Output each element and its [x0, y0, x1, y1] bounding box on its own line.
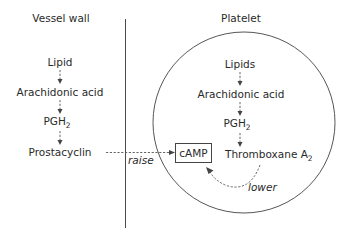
platelet-step-lipids: Lipids [225, 58, 256, 70]
platelet-step-arachidonic-acid: Arachidonic acid [198, 88, 285, 100]
down-arrow-icon [238, 133, 243, 147]
platelet-title: Platelet [221, 12, 261, 24]
down-arrow-icon [238, 102, 243, 116]
lower-label: lower [248, 181, 277, 193]
down-arrow-icon [238, 72, 243, 86]
down-arrow-icon [58, 131, 63, 145]
vessel-step-pgh2: PGH2 [43, 115, 70, 130]
platelet-step-pgh2: PGH2 [223, 117, 250, 132]
down-arrow-icon [58, 100, 63, 114]
prostacyclin-thromboxane-diagram: Vessel wall Platelet Lipid Arachidonic a… [0, 0, 351, 239]
vessel-step-arachidonic-acid: Arachidonic acid [17, 86, 104, 98]
platelet-step-thromboxane-a2: Thromboxane A2 [224, 148, 313, 163]
vessel-step-lipid: Lipid [47, 56, 72, 68]
vessel-step-prostacyclin: Prostacyclin [29, 146, 92, 158]
down-arrow-icon [58, 70, 63, 84]
camp-box: cAMP [176, 144, 212, 163]
camp-label: cAMP [179, 147, 207, 159]
raise-label: raise [128, 154, 154, 166]
vessel-wall-title: Vessel wall [32, 12, 89, 24]
